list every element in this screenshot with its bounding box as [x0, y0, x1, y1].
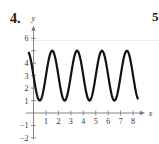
x-tick-label: 4	[81, 117, 85, 126]
x-tick-label: 8	[131, 117, 135, 126]
y-tick-label: 6	[25, 34, 29, 43]
y-tick-label: −2	[20, 134, 29, 143]
y-tick-label: −1	[20, 121, 29, 130]
y-tick-label: 1	[25, 97, 29, 106]
y-tick-label: 4	[25, 59, 29, 68]
x-axis-label: x	[148, 109, 153, 118]
x-tick-label: 2	[56, 117, 60, 126]
y-axis-arrow-icon	[31, 26, 35, 31]
x-tick-label: 5	[94, 117, 98, 126]
x-axis-arrow-icon	[140, 111, 145, 115]
curve-line	[29, 51, 139, 101]
x-tick-label: 1	[44, 117, 48, 126]
x-tick-label: 3	[69, 117, 73, 126]
y-axis-label: y	[31, 14, 36, 23]
sinusoid-chart: xy 12345678−2−112346	[0, 0, 159, 144]
x-tick-label: 7	[119, 117, 123, 126]
y-tick-label: 2	[25, 84, 29, 93]
x-tick-label: 6	[106, 117, 110, 126]
y-tick-label: 3	[25, 72, 29, 81]
